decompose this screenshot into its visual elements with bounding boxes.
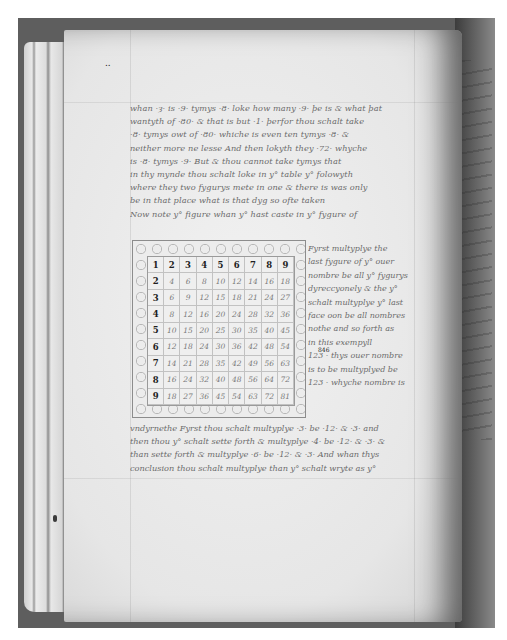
table-cell: 27 xyxy=(278,290,294,306)
table-cell: 9 xyxy=(148,389,164,405)
table-cell: 16 xyxy=(262,273,278,289)
table-cell: 7 xyxy=(148,356,164,372)
text-line: nombre be all y° fygurys xyxy=(308,269,412,282)
table-cell: 72 xyxy=(262,389,278,405)
table-cell: 48 xyxy=(229,372,245,388)
table-cell: 20 xyxy=(197,323,213,339)
superscript-number: 846 xyxy=(318,346,329,353)
table-cell: 21 xyxy=(180,356,196,372)
table-cell: 8 xyxy=(197,273,213,289)
table-cell: 24 xyxy=(262,290,278,306)
text-line: face oon be all nombres xyxy=(308,309,412,322)
text-line: then thou y° schalt sette forth & multyp… xyxy=(130,435,420,448)
table-cell: 40 xyxy=(262,323,278,339)
table-cell: 20 xyxy=(213,306,229,322)
table-cell: 54 xyxy=(278,339,294,355)
ruling-line xyxy=(414,30,415,622)
table-cell: 45 xyxy=(278,323,294,339)
table-cell: 24 xyxy=(180,372,196,388)
text-line: be in that place what is that dyg so oft… xyxy=(130,194,412,207)
table-cell: 25 xyxy=(213,323,229,339)
table-cell: 3 xyxy=(148,290,164,306)
table-cell: 6 xyxy=(229,257,245,273)
table-cell: 72 xyxy=(278,372,294,388)
table-cell: 2 xyxy=(164,257,180,273)
multiplication-table: 1234567892468101214161836912151821242748… xyxy=(132,240,306,418)
table-cell: 56 xyxy=(245,372,261,388)
table-cell: 14 xyxy=(164,356,180,372)
table-cell: 18 xyxy=(229,290,245,306)
ruling-line xyxy=(64,478,462,479)
text-line: nothe and so forth as xyxy=(308,322,412,335)
table-cell: 8 xyxy=(262,257,278,273)
table-cell: 9 xyxy=(180,290,196,306)
text-line: is to be multyplyed be xyxy=(308,363,412,376)
table-cell: 1 xyxy=(148,257,164,273)
table-cell: 54 xyxy=(229,389,245,405)
table-cell: 30 xyxy=(229,323,245,339)
text-line: conclusion thou schalt multyplye than y°… xyxy=(130,462,420,475)
table-cell: 16 xyxy=(197,306,213,322)
lower-text-block: vndyrnethe Fyrst thou schalt multyplye ·… xyxy=(130,422,420,475)
facing-page-text xyxy=(462,60,492,440)
table-cell: 7 xyxy=(245,257,261,273)
table-cell: 28 xyxy=(245,306,261,322)
table-cell: 36 xyxy=(197,389,213,405)
table-cell: 49 xyxy=(245,356,261,372)
text-line: last fygure of y° ouer xyxy=(308,255,412,268)
table-cell: 35 xyxy=(245,323,261,339)
binding-stitch xyxy=(53,515,57,522)
text-line: Fyrst multyplye the xyxy=(308,242,412,255)
table-cell: 24 xyxy=(197,339,213,355)
table-cell: 42 xyxy=(229,356,245,372)
table-cell: 63 xyxy=(278,356,294,372)
table-cell: 63 xyxy=(245,389,261,405)
table-cell: 8 xyxy=(164,306,180,322)
table-cell: 5 xyxy=(148,323,164,339)
table-cell: 2 xyxy=(148,273,164,289)
table-cell: 45 xyxy=(213,389,229,405)
table-cell: 16 xyxy=(164,372,180,388)
text-line: where they two fygurys mete in one & the… xyxy=(130,181,412,194)
manuscript-page: .. whan ·ȝ· is ·9· tymys ·8· loke how ma… xyxy=(64,30,462,622)
table-cell: 14 xyxy=(245,273,261,289)
table-cell: 10 xyxy=(213,273,229,289)
table-cell: 4 xyxy=(148,306,164,322)
table-cell: 9 xyxy=(278,257,294,273)
table-cell: 6 xyxy=(180,273,196,289)
table-cell: 27 xyxy=(180,389,196,405)
text-line: vndyrnethe Fyrst thou schalt multyplye ·… xyxy=(130,422,420,435)
text-line: is ·8· tymys ·9· But & thou cannot take … xyxy=(130,155,412,168)
table-cell: 12 xyxy=(229,273,245,289)
table-cell: 36 xyxy=(229,339,245,355)
text-line: schalt multyplye y° last xyxy=(308,296,412,309)
table-cell: 40 xyxy=(213,372,229,388)
table-cell: 32 xyxy=(262,306,278,322)
table-cell: 18 xyxy=(180,339,196,355)
table-cell: 3 xyxy=(180,257,196,273)
text-line: whan ·ȝ· is ·9· tymys ·8· loke how many … xyxy=(130,102,412,115)
table-cell: 48 xyxy=(262,339,278,355)
table-cell: 12 xyxy=(164,339,180,355)
table-cell: 8 xyxy=(148,372,164,388)
table-cell: 30 xyxy=(213,339,229,355)
text-line: in thy mynde thou schalt loke in y° tabl… xyxy=(130,168,412,181)
table-cell: 12 xyxy=(197,290,213,306)
table-cell: 56 xyxy=(262,356,278,372)
text-line: Now note y° figure whan y° hast caste in… xyxy=(130,208,412,221)
table-cell: 18 xyxy=(164,389,180,405)
text-line: neither more ne lesse And then lokyth th… xyxy=(130,142,412,155)
table-cell: 18 xyxy=(278,273,294,289)
ink-mark: .. xyxy=(105,58,111,68)
side-text-block: Fyrst multyplye the last fygure of y° ou… xyxy=(308,242,412,389)
table-cell: 24 xyxy=(229,306,245,322)
table-cell: 42 xyxy=(245,339,261,355)
table-cell: 5 xyxy=(213,257,229,273)
text-line: than sette forth & multyplye ·6· be ·12·… xyxy=(130,448,420,461)
table-cell: 15 xyxy=(180,323,196,339)
upper-text-block: whan ·ȝ· is ·9· tymys ·8· loke how many … xyxy=(130,102,412,221)
table-cell: 4 xyxy=(197,257,213,273)
text-line: wantyth of ·80· & that is but ·1· þerfor… xyxy=(130,115,412,128)
table-cell: 35 xyxy=(213,356,229,372)
table-cell: 6 xyxy=(148,339,164,355)
